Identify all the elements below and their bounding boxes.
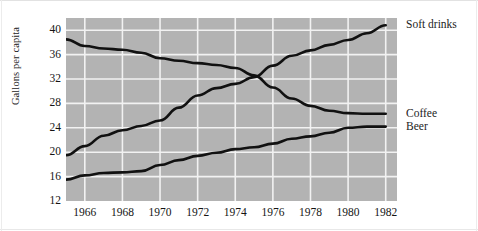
y-axis-tick-label: 36 — [50, 49, 62, 61]
x-axis-tick-label: 1974 — [224, 207, 247, 219]
series-label-soft-drinks: Soft drinks — [406, 18, 457, 32]
y-axis-tick-label: 40 — [50, 24, 62, 36]
series-lines — [66, 25, 386, 179]
y-axis-tick-label: 28 — [50, 98, 62, 110]
y-axis-tick-label: 20 — [50, 146, 62, 158]
series-line — [66, 127, 386, 180]
x-axis-tick-label: 1968 — [111, 207, 134, 219]
page-edge-bottom — [0, 229, 478, 230]
page-edge-right — [476, 0, 477, 231]
x-axis-tick-label: 1980 — [337, 207, 360, 219]
plot-svg — [66, 18, 397, 201]
x-axis-tick-label: 1972 — [186, 207, 209, 219]
x-axis-tick-label: 1966 — [73, 207, 96, 219]
y-axis-label: Gallons per capita — [10, 0, 21, 136]
x-axis-tick-label: 1976 — [261, 207, 284, 219]
y-axis-tick-label: 24 — [50, 122, 62, 134]
series-line — [66, 25, 386, 155]
chart-figure: Gallons per capita 1216202428323640 1966… — [0, 0, 478, 231]
y-axis-tick-label: 16 — [50, 171, 62, 183]
vertical-gridlines — [85, 18, 386, 201]
x-axis-tick-label: 1970 — [149, 207, 172, 219]
page-edge-top — [0, 0, 478, 1]
series-label-beer: Beer — [406, 120, 428, 134]
y-axis-tick-label: 32 — [50, 73, 62, 85]
y-axis-tick-label: 12 — [50, 195, 62, 207]
plot-area: 1216202428323640 19661968197019721974197… — [66, 18, 397, 201]
page-edge-left — [1, 0, 2, 231]
series-label-coffee: Coffee — [406, 107, 437, 121]
x-axis-tick-label: 1982 — [374, 207, 397, 219]
x-axis-tick-label: 1978 — [299, 207, 322, 219]
